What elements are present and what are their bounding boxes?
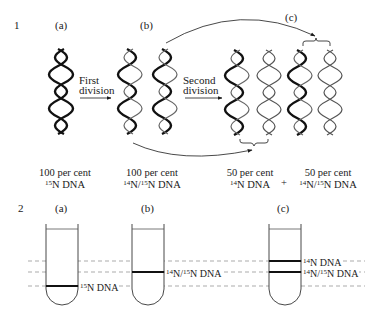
isotope-sup: 15 [141,179,148,187]
isotope-sup: 14 [230,179,237,187]
isotope-sup: 14 [303,268,310,276]
caption-text: N/ [130,179,141,190]
brace-top [303,38,330,46]
band-label-b: 14N/15N DNA [165,267,222,279]
helix-c1-hybrid [225,50,249,135]
caption-c2-line1: 50 per cent [288,168,368,178]
band-text: N/ [173,268,183,279]
band-text: N DNA [87,282,118,293]
isotope-sup: 14 [166,268,173,276]
caption-b-line1: 100 per cent [112,168,192,178]
second-division-label: Second division [183,75,218,95]
caption-text: N DNA [52,179,85,190]
panel-2-label-a: (a) [55,203,67,214]
caption-b-line2: 14N/15N DNA [112,178,192,190]
curved-arrow-top [166,20,315,43]
brace-bottom [240,139,268,146]
caption-b: 100 per cent 14N/15N DNA [112,168,192,190]
curved-arrow-bottom [133,143,252,156]
isotope-sup: 15 [80,282,87,290]
helix-c3-hybrid [288,50,312,135]
caption-a-line2: 15N DNA [30,178,100,190]
band-text: N/ [310,268,320,279]
caption-c2-line2: 14N/15N DNA [288,178,368,190]
isotope-sup: 15 [45,179,52,187]
isotope-sup: 15 [317,179,324,187]
band-text: N DNA [190,268,221,279]
caption-a: 100 per cent 15N DNA [30,168,100,190]
helix-b1-hybrid [118,49,142,134]
second-division-line2: division [183,85,218,95]
tube-c [269,224,301,305]
caption-text: N DNA [148,179,181,190]
caption-c1-line2: 14N DNA [218,178,282,190]
panel-2-label-b: (b) [141,203,154,214]
band-label-a: 15N DNA [79,281,119,293]
isotope-sup: 15 [320,268,327,276]
band-label-c-bottom: 14N/15N DNA [302,267,359,279]
helix-c4-light [318,50,342,135]
band-text: N DNA [327,268,358,279]
first-division-label: First division [79,75,114,95]
helix-b2-hybrid [153,49,177,134]
tube-b [132,224,164,305]
caption-c1-line1: 50 per cent [218,168,282,178]
panel-2-label-c: (c) [277,203,289,214]
helix-a-heavy [49,49,73,134]
caption-text: N DNA [324,179,357,190]
caption-c1: 50 per cent 14N DNA [218,168,282,190]
panel-2-number: 2 [18,203,24,214]
caption-c2: 50 per cent 14N/15N DNA [288,168,368,190]
isotope-sup: 15 [183,268,190,276]
first-division-line2: division [79,85,114,95]
helix-c2-light [257,50,281,135]
isotope-sup: 14 [303,257,310,265]
caption-text: N/ [306,179,317,190]
caption-a-line1: 100 per cent [30,168,100,178]
tube-a [46,224,78,305]
caption-text: N DNA [237,179,270,190]
